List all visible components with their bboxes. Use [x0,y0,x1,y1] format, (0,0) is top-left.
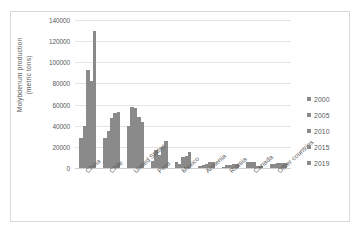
legend-label: 2015 [314,144,330,151]
y-axis-tick-label: 60000 [52,101,70,108]
x-axis-category-labels: ChinaChileUnited StatesPeruMexicoArmenia… [75,169,291,231]
legend-swatch-icon [307,97,311,101]
legend-swatch-icon [307,161,311,165]
y-axis-title: Molybdenum production (metric tons) [13,15,35,135]
bar-group [124,20,148,168]
bar[interactable] [93,31,96,168]
bar-group [219,20,243,168]
legend-label: 2005 [314,112,330,119]
legend-item[interactable]: 2005 [307,107,362,123]
bars-layer [75,20,291,168]
y-axis-tick-label: 140000 [49,17,70,24]
y-axis-title-line-1: Molybdenum production [15,38,24,113]
legend-item[interactable]: 2015 [307,139,362,155]
legend-swatch-icon [307,145,311,149]
y-axis-tick-label: 80000 [52,80,70,87]
legend-swatch-icon [307,129,311,133]
legend-label: 2000 [314,96,330,103]
bar-group [100,20,124,168]
legend-item[interactable]: 2019 [307,155,362,171]
y-axis-title-line-2: (metric tons) [24,55,33,94]
y-axis-tick-label: 20000 [52,143,70,150]
legend-item[interactable]: 2000 [307,91,362,107]
legend-label: 2019 [314,160,330,167]
plot-area [75,20,291,169]
legend-swatch-icon [307,113,311,117]
bar-group [76,20,100,168]
y-axis-tick-labels: 020000400006000080000100000120000140000 [39,20,73,168]
bar-group [242,20,266,168]
y-axis-tick-label: 100000 [49,59,70,66]
y-axis-tick-label: 0 [66,165,70,172]
bar-group [171,20,195,168]
y-axis-tick-label: 120000 [49,38,70,45]
chart-figure: Molybdenum production (metric tons) 0200… [0,0,362,234]
chart-legend: 20002005201020152019 [307,91,362,171]
bar-group [266,20,290,168]
chart-frame: Molybdenum production (metric tons) 0200… [10,11,350,222]
legend-label: 2010 [314,128,330,135]
bar-group [195,20,219,168]
y-axis-tick-label: 40000 [52,122,70,129]
legend-item[interactable]: 2010 [307,123,362,139]
